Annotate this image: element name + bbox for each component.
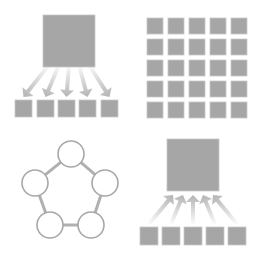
ring-node [58,141,84,167]
grid-cell [210,81,226,97]
grid-panel [147,18,247,118]
ring-connector [95,195,101,212]
grid-cell [189,102,205,118]
grid-cell [189,60,205,76]
many-to-one-panel [140,139,246,245]
grid-cell [210,18,226,34]
source-small-square [184,227,202,245]
grid-cell [189,81,205,97]
arrow-icon [39,62,65,99]
one-to-many-panel [15,15,118,117]
ring-connector [81,162,95,174]
ring-connector [39,195,45,213]
ring-node [92,170,118,196]
grid-cell [210,102,226,118]
grid-cell [168,81,184,97]
sink-square [167,139,219,191]
ring-connector [45,162,61,175]
grid-cell [147,39,163,55]
grid-cell [168,18,184,34]
grid-cell [210,60,226,76]
target-square [15,100,32,117]
target-square [79,100,96,117]
grid-cell [147,102,163,118]
ring-node [78,212,104,238]
grid-cell [231,102,247,118]
target-square [101,100,118,117]
source-small-square [140,227,158,245]
grid-cell [231,39,247,55]
grid-cell [147,60,163,76]
ring-node [37,212,63,238]
grid-cell [210,39,226,55]
ring-node [22,170,48,196]
grid-cell [168,39,184,55]
grid-cell [168,102,184,118]
grid-cell [147,81,163,97]
source-square [43,15,95,67]
target-square [37,100,54,117]
ring-panel [22,141,118,238]
grid-cell [147,18,163,34]
grid-cell [189,39,205,55]
grid-cell [168,60,184,76]
source-small-square [162,227,180,245]
grid-cell [231,18,247,34]
grid-cell [231,60,247,76]
grid-cell [189,18,205,34]
source-small-square [206,227,224,245]
source-small-square [228,227,246,245]
target-square [58,100,75,117]
grid-cell [231,81,247,97]
arrow-icon [60,64,76,97]
diagram-canvas [0,0,265,262]
arrow-icon [186,195,200,224]
